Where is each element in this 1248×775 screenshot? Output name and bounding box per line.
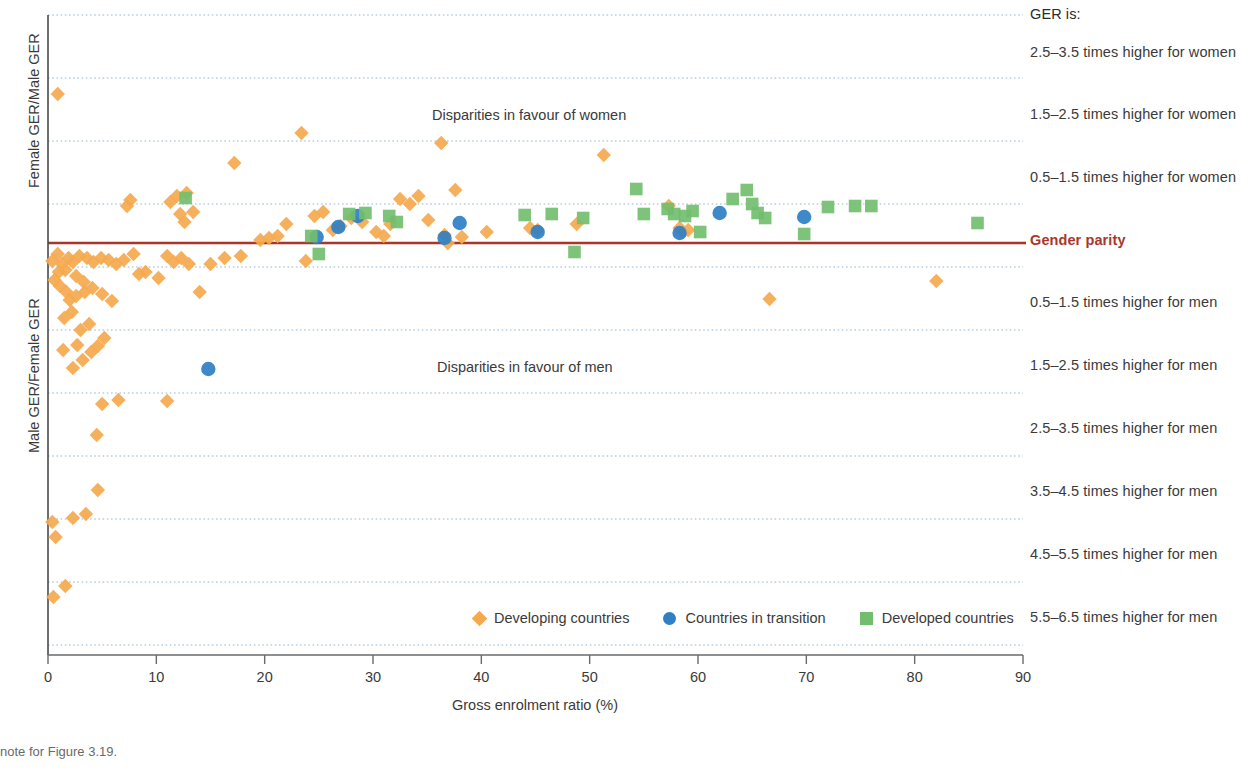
data-point: [227, 156, 241, 170]
legend-entry-transition[interactable]: Countries in transition: [663, 610, 825, 626]
data-point: [234, 249, 248, 263]
data-point: [638, 208, 651, 221]
right-label-band-6: 2.5–3.5 times higher for men: [1030, 420, 1217, 436]
data-point: [545, 208, 558, 221]
data-point: [66, 361, 80, 375]
data-point: [530, 225, 544, 239]
x-tick-label-50: 50: [570, 669, 610, 685]
data-point: [343, 208, 356, 221]
data-point: [568, 246, 581, 259]
circle-marker-icon: [663, 612, 676, 625]
data-point: [798, 228, 811, 241]
right-label-band-1: 1.5–2.5 times higher for women: [1030, 106, 1236, 122]
data-point: [203, 257, 217, 271]
data-point: [192, 285, 206, 299]
data-point: [279, 217, 293, 231]
data-point: [391, 216, 404, 229]
data-point: [712, 206, 726, 220]
data-point: [91, 483, 105, 497]
annotation-disparities-women: Disparities in favour of women: [432, 107, 626, 123]
x-tick-label-60: 60: [678, 669, 718, 685]
data-point: [672, 226, 686, 240]
data-point: [201, 362, 215, 376]
x-tick-label-40: 40: [461, 669, 501, 685]
right-label-band-8: 4.5–5.5 times higher for men: [1030, 546, 1217, 562]
chart-legend: Developing countries Countries in transi…: [474, 610, 1014, 626]
data-point: [668, 208, 681, 221]
data-point: [331, 220, 345, 234]
x-tick-label-80: 80: [895, 669, 935, 685]
right-label-band-7: 3.5–4.5 times higher for men: [1030, 483, 1217, 499]
y-axis-title-top: Female GER/Male GER: [26, 33, 42, 188]
data-point: [90, 428, 104, 442]
data-point: [51, 87, 65, 101]
data-point: [434, 136, 448, 150]
data-point: [759, 212, 772, 225]
x-tick-label-70: 70: [786, 669, 826, 685]
series-developed-countries-points: [179, 183, 984, 261]
x-tick-label-20: 20: [245, 669, 285, 685]
data-point: [217, 251, 231, 265]
data-point: [111, 393, 125, 407]
legend-entry-developed[interactable]: Developed countries: [860, 610, 1014, 626]
data-point: [518, 209, 531, 222]
right-label-band-9: 5.5–6.5 times higher for men: [1030, 609, 1217, 625]
footnote-line-1: note for Figure 3.19.: [0, 744, 117, 759]
right-label-gender-parity: Gender parity: [1030, 232, 1126, 248]
x-tick-label-0: 0: [28, 669, 68, 685]
x-tick-label-30: 30: [353, 669, 393, 685]
x-tick-label-10: 10: [136, 669, 176, 685]
data-point: [179, 192, 192, 205]
right-label-band-4: 0.5–1.5 times higher for men: [1030, 294, 1217, 310]
data-point: [686, 205, 699, 218]
data-point: [971, 217, 984, 230]
data-point: [480, 225, 494, 239]
data-point: [762, 292, 776, 306]
series-countries-in-transition-points: [201, 206, 811, 376]
x-tick-label-90: 90: [1003, 669, 1043, 685]
data-point: [305, 230, 318, 243]
diamond-marker-icon: [472, 610, 488, 626]
data-point: [186, 205, 200, 219]
data-point: [421, 213, 435, 227]
data-point: [437, 231, 451, 245]
data-point: [66, 511, 80, 525]
data-point: [865, 200, 878, 213]
y-axis-title-bottom: Male GER/Female GER: [26, 298, 42, 453]
data-point: [48, 530, 62, 544]
data-point: [70, 338, 84, 352]
data-point: [359, 207, 372, 220]
data-point: [294, 126, 308, 140]
data-point: [822, 201, 835, 214]
annotation-disparities-men: Disparities in favour of men: [437, 359, 613, 375]
data-point: [448, 183, 462, 197]
data-point: [56, 343, 70, 357]
data-point: [849, 200, 862, 213]
data-point: [630, 183, 643, 196]
data-point: [694, 226, 707, 239]
x-axis-title: Gross enrolment ratio (%): [452, 697, 618, 713]
data-point: [452, 216, 466, 230]
data-point: [929, 274, 943, 288]
data-point: [597, 148, 611, 162]
series-developing-countries-points: [45, 87, 943, 604]
data-point: [299, 254, 313, 268]
right-label-band-2: 0.5–1.5 times higher for women: [1030, 169, 1236, 185]
data-point: [58, 579, 72, 593]
legend-label-developing: Developing countries: [494, 610, 629, 626]
right-label-band-5: 1.5–2.5 times higher for men: [1030, 357, 1217, 373]
data-point: [577, 212, 590, 225]
right-label-band-0: 2.5–3.5 times higher for women: [1030, 44, 1236, 60]
legend-label-developed: Developed countries: [882, 610, 1014, 626]
data-point: [151, 271, 165, 285]
data-point: [740, 184, 753, 197]
data-point: [313, 248, 326, 261]
data-point: [726, 193, 739, 206]
right-label-heading: GER is:: [1030, 6, 1081, 22]
data-point: [95, 397, 109, 411]
data-point: [160, 394, 174, 408]
data-point: [797, 210, 811, 224]
square-marker-icon: [860, 612, 873, 625]
legend-entry-developing[interactable]: Developing countries: [474, 610, 629, 626]
legend-label-transition: Countries in transition: [685, 610, 825, 626]
